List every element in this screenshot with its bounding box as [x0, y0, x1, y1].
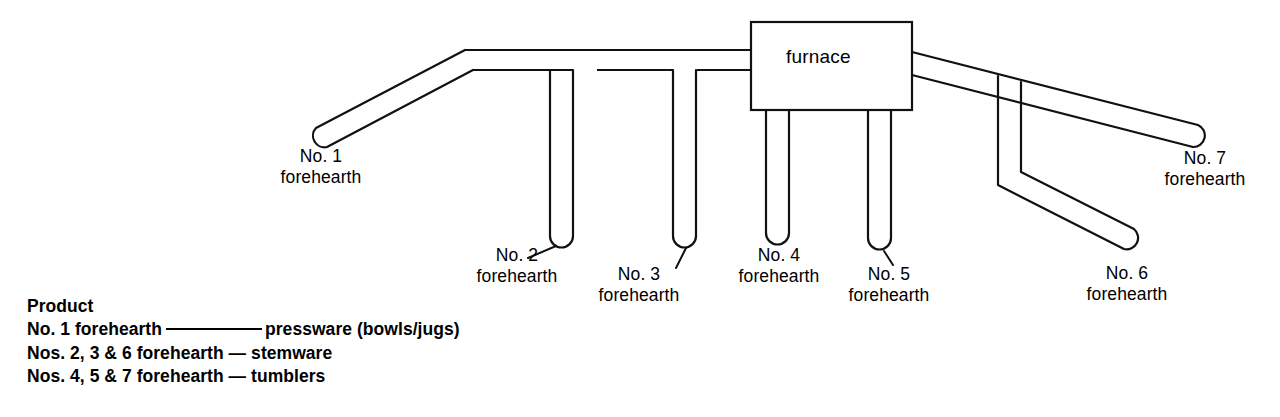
legend-row-3-product: tumblers [251, 366, 325, 386]
label-forehearth-7: No. 7 forehearth [1140, 148, 1270, 191]
pipe-forehearth-2 [550, 70, 573, 248]
label-forehearth-5: No. 5 forehearth [824, 264, 954, 307]
label-forehearth-6-line2: forehearth [1062, 284, 1192, 305]
legend-heading: Product [27, 295, 460, 318]
legend-row-1: No. 1 forehearthpressware (bowls/jugs) [27, 318, 460, 341]
pipe-forehearth-4 [766, 110, 789, 245]
legend-row-3: Nos. 4, 5 & 7 forehearth — tumblers [27, 365, 460, 388]
pipe-forehearth-1 [313, 50, 473, 147]
legend-row-1-product: pressware (bowls/jugs) [265, 319, 460, 339]
label-forehearth-1-line1: No. 1 [256, 146, 386, 167]
label-forehearth-6-line1: No. 6 [1062, 263, 1192, 284]
label-forehearth-1: No. 1 forehearth [256, 146, 386, 189]
legend-row-2-separator: — [229, 343, 247, 363]
furnace-label: furnace [786, 46, 851, 68]
legend: Product No. 1 forehearthpressware (bowls… [27, 295, 460, 388]
diagram-page: furnace No. 1 forehearth No. 2 foreheart… [0, 0, 1280, 417]
pipe-forehearth-3 [673, 70, 696, 248]
label-forehearth-3-line1: No. 3 [574, 264, 704, 285]
label-forehearth-5-line2: forehearth [824, 285, 954, 306]
leader-line-forehearth-5 [884, 251, 893, 265]
label-forehearth-7-line1: No. 7 [1140, 148, 1270, 169]
label-forehearth-1-line2: forehearth [256, 167, 386, 188]
label-forehearth-2-line2: forehearth [452, 266, 582, 287]
pipe-forehearth-7 [912, 52, 1205, 147]
legend-row-2: Nos. 2, 3 & 6 forehearth — stemware [27, 342, 460, 365]
label-forehearth-7-line2: forehearth [1140, 169, 1270, 190]
label-forehearth-2-line1: No. 2 [452, 245, 582, 266]
label-forehearth-3-line2: forehearth [574, 285, 704, 306]
pipe-forehearth-5 [868, 110, 891, 250]
legend-row-3-source: Nos. 4, 5 & 7 forehearth [27, 366, 224, 386]
legend-row-2-product: stemware [251, 343, 332, 363]
label-forehearth-5-line1: No. 5 [824, 264, 954, 285]
legend-row-2-source: Nos. 2, 3 & 6 forehearth [27, 343, 224, 363]
legend-row-1-source: No. 1 forehearth [27, 319, 162, 339]
legend-row-3-separator: — [229, 366, 247, 386]
label-forehearth-6: No. 6 forehearth [1062, 263, 1192, 306]
legend-row-1-rule [166, 328, 262, 330]
label-forehearth-3: No. 3 forehearth [574, 264, 704, 307]
label-forehearth-2: No. 2 forehearth [452, 245, 582, 288]
